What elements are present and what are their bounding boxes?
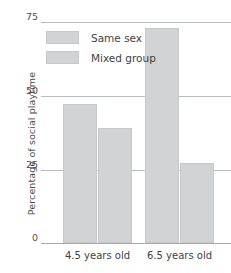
y-tick-label-0: 0 [4,232,38,243]
y-tick-label-75: 75 [4,11,38,22]
legend-item-mixed-group: Mixed group [46,51,156,64]
x-axis-tick-labels: 4.5 years old 6.5 years old [41,250,231,268]
gridline-50 [41,96,231,97]
y-tick-label-50: 50 [4,85,38,96]
legend-item-same-sex: Same sex [46,31,156,44]
legend: Same sex Mixed group [46,31,156,71]
y-axis-tick-labels: 75 50 25 0 [0,0,38,244]
gridline-75 [41,22,231,23]
bar-4.5-mixed-group [98,128,132,243]
bar-4.5-same-sex [63,104,97,243]
legend-label-mixed-group: Mixed group [91,52,156,64]
legend-label-same-sex: Same sex [91,32,142,44]
bar-chart: Percentage of social playtime 75 50 25 0… [0,0,231,273]
x-tick-label-6.5-years-old: 6.5 years old [123,250,231,261]
legend-swatch-same-sex [46,31,79,44]
axis-baseline [41,243,231,244]
legend-swatch-mixed-group [46,51,79,64]
y-tick-label-25: 25 [4,159,38,170]
bar-6.5-mixed-group [180,163,214,243]
